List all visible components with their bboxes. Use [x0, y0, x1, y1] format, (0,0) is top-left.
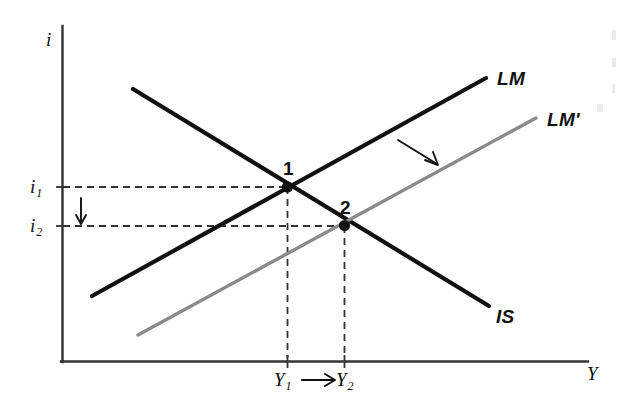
y-tick-label-i1-base: i: [30, 176, 35, 197]
is-curve-label: IS: [496, 307, 515, 326]
is-lm-figure: i Y i1 i2 Y1 Y2 LM LM' IS 1 2: [0, 0, 624, 417]
axis-ticks-group: [56, 187, 345, 368]
is-curve: [133, 89, 489, 306]
lm-curve-label: LM: [497, 69, 525, 88]
y-tick-label-i1: i1: [30, 177, 41, 196]
scan-edge-artifact-4: [597, 104, 603, 112]
x-axis-label: Y: [587, 364, 598, 383]
is-lm-chart-svg: [0, 0, 624, 417]
x-tick-label-y1-base: Y: [274, 369, 285, 390]
y-tick-label-i2-base: i: [30, 215, 35, 236]
equilibrium-point-2-marker: [339, 220, 350, 231]
output-rise-arrow-icon: [302, 374, 335, 386]
y-tick-label-i1-sub: 1: [36, 186, 42, 200]
equilibrium-point-1-label: 1: [283, 159, 294, 178]
interest-rate-fall-arrow-icon: [76, 198, 86, 224]
y-axis-label: i: [46, 30, 51, 49]
y-tick-label-i2: i2: [30, 216, 41, 235]
x-tick-label-y1: Y1: [274, 370, 291, 389]
scan-edge-artifact-1: [612, 30, 616, 40]
x-tick-label-y2-base: Y: [336, 369, 347, 390]
scan-edge-artifact-2: [612, 58, 616, 67]
equilibrium-point-2-label: 2: [340, 198, 351, 217]
guide-lines-group: [63, 187, 345, 358]
y-tick-label-i2-sub: 2: [36, 225, 42, 239]
x-tick-label-y2-sub: 2: [348, 379, 354, 393]
x-tick-label-y1-sub: 1: [286, 379, 292, 393]
equilibrium-point-1-marker: [282, 181, 293, 192]
lm-shift-arrow-icon: [398, 140, 438, 165]
scan-edge-artifact-3: [612, 84, 615, 93]
lm-prime-curve-label: LM': [547, 110, 580, 129]
x-tick-label-y2: Y2: [336, 370, 353, 389]
